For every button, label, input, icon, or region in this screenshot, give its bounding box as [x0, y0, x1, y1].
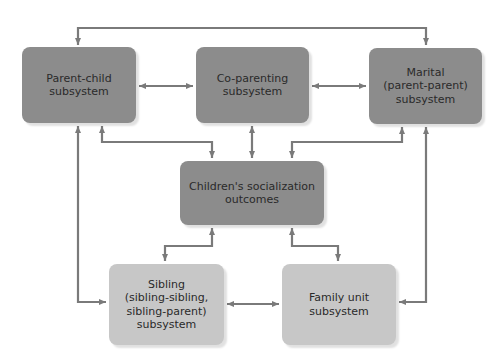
node-family-unit-subsystem: Family unit subsystem [282, 264, 396, 345]
node-sibling-subsystem: Sibling (sibling-sibling, sibling-parent… [109, 264, 224, 345]
edge-marital-children-outcomes [292, 127, 402, 158]
node-co-parenting-subsystem: Co-parenting subsystem [196, 47, 309, 123]
node-label: Co-parenting subsystem [217, 72, 289, 99]
edge-children-outcomes-family-unit [292, 228, 338, 261]
node-parent-child-subsystem: Parent-child subsystem [22, 47, 136, 123]
edge-parent-child-sibling [78, 126, 106, 302]
node-label: Marital (parent-parent) subsystem [383, 66, 468, 107]
node-label: Sibling (sibling-sibling, sibling-parent… [125, 278, 208, 332]
node-label: Parent-child subsystem [46, 72, 111, 99]
edge-parent-child-children-outcomes [102, 126, 212, 158]
node-label: Children's socialization outcomes [189, 180, 315, 207]
edge-parent-child-marital [78, 28, 426, 45]
node-childrens-socialization-outcomes: Children's socialization outcomes [180, 161, 324, 225]
edge-children-outcomes-sibling [165, 228, 212, 261]
node-label: Family unit subsystem [309, 291, 369, 318]
edge-marital-family-unit [399, 127, 426, 302]
node-marital-subsystem: Marital (parent-parent) subsystem [369, 48, 482, 124]
